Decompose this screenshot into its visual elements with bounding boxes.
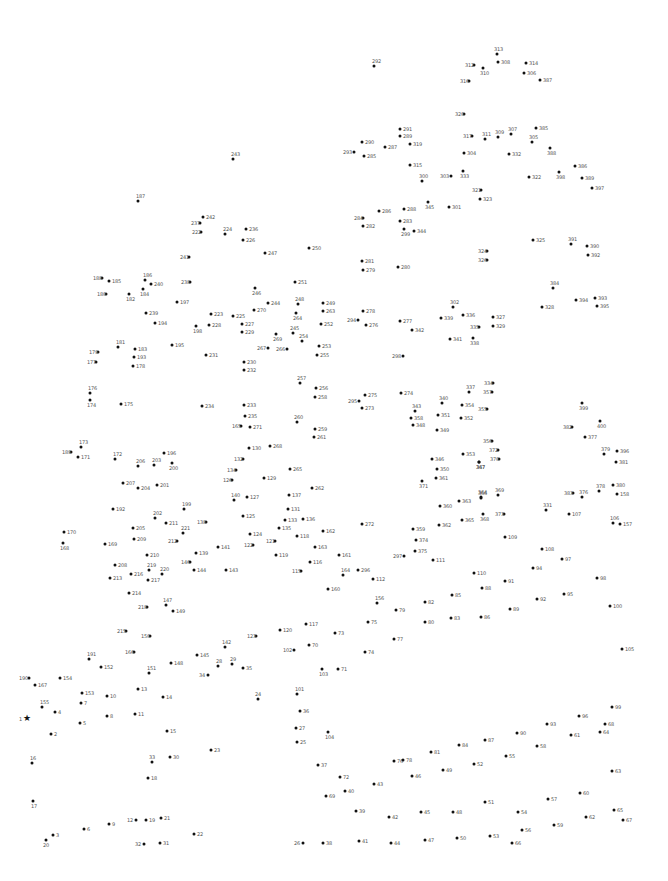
- dot-number-label: 335: [470, 325, 479, 330]
- puzzle-dot: [289, 468, 292, 471]
- dot-number-label: 323: [483, 197, 492, 202]
- dot-number-label: 168: [60, 546, 69, 551]
- puzzle-dot: [196, 654, 199, 657]
- dot-number-label: 61: [574, 733, 580, 738]
- puzzle-dot: [463, 152, 466, 155]
- dot-number-label: 29: [230, 657, 236, 662]
- dot-number-label: 34: [199, 673, 205, 678]
- puzzle-dot: [362, 310, 365, 313]
- dot-number-label: 354: [465, 403, 474, 408]
- puzzle-dot: [34, 684, 37, 687]
- puzzle-dot: [80, 446, 83, 449]
- puzzle-dot: [232, 158, 235, 161]
- dot-number-label: 6: [87, 827, 90, 832]
- puzzle-dot: [599, 731, 602, 734]
- dot-number-label: 215: [117, 629, 126, 634]
- dot-number-label: 44: [394, 841, 400, 846]
- dot-number-label: 25: [300, 740, 306, 745]
- dot-number-label: 39: [359, 809, 365, 814]
- puzzle-dot: [621, 648, 624, 651]
- puzzle-dot: [106, 715, 109, 718]
- puzzle-dot: [388, 816, 391, 819]
- dot-number-label: 386: [578, 164, 587, 169]
- puzzle-dot: [284, 519, 287, 522]
- puzzle-dot: [393, 760, 396, 763]
- puzzle-dot: [210, 313, 213, 316]
- dot-number-label: 33: [149, 755, 155, 760]
- puzzle-dot: [159, 842, 162, 845]
- dot-number-label: 108: [545, 547, 554, 552]
- puzzle-dot: [473, 763, 476, 766]
- puzzle-dot: [269, 445, 272, 448]
- dot-number-label: 223: [214, 312, 223, 317]
- dot-number-label: 289: [403, 134, 412, 139]
- puzzle-dot: [114, 564, 117, 567]
- dot-number-label: 308: [501, 60, 510, 65]
- puzzle-dot: [361, 407, 364, 410]
- dot-number-label: 147: [163, 598, 172, 603]
- dot-number-label: 345: [425, 205, 434, 210]
- puzzle-dot: [424, 839, 427, 842]
- puzzle-dot: [412, 424, 415, 427]
- dot-number-label: 314: [529, 61, 538, 66]
- puzzle-dot: [563, 593, 566, 596]
- puzzle-dot: [442, 769, 445, 772]
- puzzle-dot: [516, 732, 519, 735]
- dot-number-label: 366: [478, 491, 487, 496]
- dot-number-label: 261: [317, 435, 326, 440]
- dot-number-label: 230: [247, 360, 256, 365]
- dot-number-label: 382: [563, 425, 572, 430]
- puzzle-dot: [480, 497, 483, 500]
- dot-number-label: 392: [591, 253, 600, 258]
- puzzle-dot: [296, 421, 299, 424]
- dot-number-label: 243: [231, 152, 240, 157]
- dot-number-label: 203: [152, 458, 161, 463]
- puzzle-dot: [546, 723, 549, 726]
- dot-number-label: 245: [290, 326, 299, 331]
- dot-number-label: 217: [151, 578, 160, 583]
- puzzle-dot: [63, 531, 66, 534]
- dot-number-label: 348: [416, 423, 425, 428]
- dot-number-label: 124: [253, 532, 262, 537]
- dot-number-label: 367: [476, 465, 485, 470]
- dot-number-label: 337: [466, 385, 475, 390]
- dot-number-label: 389: [585, 176, 594, 181]
- dot-number-label: 12: [127, 818, 133, 823]
- dot-number-label: 68: [608, 722, 614, 727]
- dot-number-label: 358: [414, 416, 423, 421]
- puzzle-dot: [596, 305, 599, 308]
- puzzle-dot: [484, 138, 487, 141]
- puzzle-dot: [578, 715, 581, 718]
- dot-number-label: 303: [440, 174, 449, 179]
- dot-number-label: 339: [444, 316, 453, 321]
- puzzle-dot: [299, 382, 302, 385]
- dot-number-label: 81: [434, 750, 440, 755]
- dot-number-label: 262: [315, 486, 324, 491]
- dot-number-label: 71: [341, 667, 347, 672]
- puzzle-dot: [481, 587, 484, 590]
- dot-number-label: 285: [367, 154, 376, 159]
- puzzle-dot: [130, 573, 133, 576]
- puzzle-dot: [452, 811, 455, 814]
- puzzle-dot: [609, 605, 612, 608]
- puzzle-dot: [293, 649, 296, 652]
- dot-number-label: 169: [108, 542, 117, 547]
- dot-number-label: 63: [615, 769, 621, 774]
- dot-number-label: 179: [89, 350, 98, 355]
- dot-number-label: 326: [478, 258, 487, 263]
- puzzle-dot: [201, 405, 204, 408]
- dot-number-label: 119: [279, 553, 288, 558]
- dot-number-label: 369: [495, 488, 504, 493]
- dot-number-label: 296: [361, 568, 370, 573]
- dot-number-label: 344: [417, 229, 426, 234]
- dot-number-label: 218: [138, 605, 147, 610]
- dot-number-label: 309: [495, 130, 504, 135]
- dot-number-label: 311: [482, 132, 491, 137]
- puzzle-dot: [587, 254, 590, 257]
- dot-number-label: 122: [244, 543, 253, 548]
- dot-number-label: 299: [401, 232, 410, 237]
- puzzle-dot: [373, 783, 376, 786]
- puzzle-dot: [361, 523, 364, 526]
- puzzle-dot: [100, 666, 103, 669]
- dot-number-label: 197: [180, 300, 189, 305]
